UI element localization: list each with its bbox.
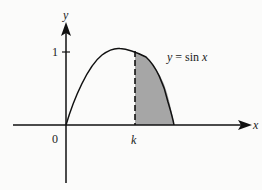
curve-label-x: x xyxy=(201,50,208,64)
y-axis-label: y xyxy=(62,8,69,22)
sine-diagram: y x 1 0 k y = sin x xyxy=(0,0,262,190)
x-axis-label: x xyxy=(252,118,259,132)
y-tick-label-1: 1 xyxy=(52,45,58,59)
origin-label: 0 xyxy=(52,132,58,146)
k-label: k xyxy=(131,133,137,147)
curve-label-eq: = sin xyxy=(175,50,199,64)
curve-label: y = sin x xyxy=(166,50,208,64)
diagram-canvas: y x 1 0 k y = sin x xyxy=(0,0,262,190)
curve-label-y: y xyxy=(166,50,173,64)
